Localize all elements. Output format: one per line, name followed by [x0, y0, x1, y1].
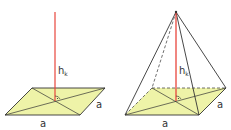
right-side-front-label: a	[162, 118, 168, 129]
left-side-right-label: a	[96, 99, 102, 110]
left-right-angle-dot	[57, 98, 58, 99]
right-right-angle-dot	[178, 98, 179, 99]
diagram-canvas: hk a a hk a a	[0, 0, 231, 130]
left-side-front-label: a	[40, 118, 46, 129]
right-lateral-edge-right	[176, 12, 226, 88]
left-height-label: hk	[58, 65, 68, 77]
right-figure: hk a a	[125, 11, 226, 129]
apex-point	[175, 11, 177, 13]
left-figure: hk a a	[5, 12, 105, 129]
right-lateral-edge-back	[152, 12, 176, 88]
right-side-right-label: a	[217, 99, 223, 110]
